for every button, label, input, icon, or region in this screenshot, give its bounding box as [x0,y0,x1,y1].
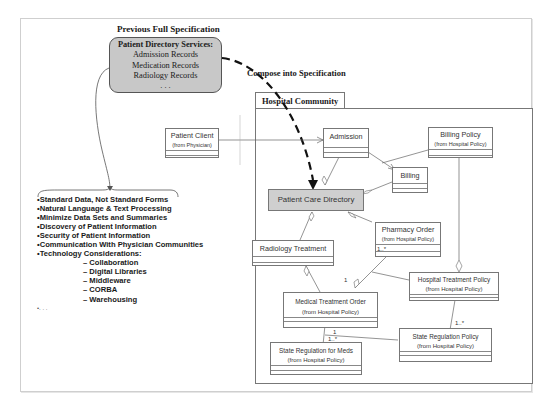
class-state-regulation-policy: State Regulation Policy (from Hospital P… [399,328,492,362]
class-name: Patient Client [166,129,218,141]
multiplicity-label: 1..* [377,246,386,252]
class-billing-policy: Billing Policy (from Hospital Policy) [428,127,493,158]
class-state-regulation-meds: State Regulation for Meds (from Hospital… [270,342,362,375]
class-stereotype: (from Hospital Policy) [376,235,440,244]
class-stereotype: (from Hospital Policy) [410,285,498,294]
class-hospital-treatment-policy: Hospital Treatment Policy (from Hospital… [409,272,499,301]
class-name: Billing Policy [429,128,492,140]
class-name: Radiology Treatment [253,241,333,254]
class-name: Pharmacy Order [376,223,440,235]
class-stereotype: (from Hospital Policy) [284,307,377,317]
class-name: Medical Treatment Order [284,293,377,307]
class-name: State Regulation Policy [400,329,491,342]
class-medical-treatment-order: Medical Treatment Order (from Hospital P… [283,292,378,328]
class-patient-client: Patient Client (from Physician) [165,128,219,158]
class-name: Billing [393,168,427,181]
class-name: Patient Care Directory [269,190,363,205]
multiplicity-label: 1 [333,329,336,335]
multiplicity-label: 1..* [455,320,464,326]
class-stereotype: (from Physician) [166,141,218,150]
class-admission: Admission [323,128,369,158]
class-stereotype: (from Hospital Policy) [429,140,492,149]
class-name: State Regulation for Meds [271,343,361,356]
class-stereotype: (from Hospital Policy) [400,342,491,351]
multiplicity-label: 1 [344,277,347,283]
class-name: Hospital Treatment Policy [410,273,498,285]
class-billing: Billing [392,167,428,193]
class-name: Admission [324,129,368,142]
class-stereotype: (from Hospital Policy) [271,356,361,365]
class-radiology-treatment: Radiology Treatment [252,240,334,266]
class-patient-care-directory: Patient Care Directory [268,189,364,211]
